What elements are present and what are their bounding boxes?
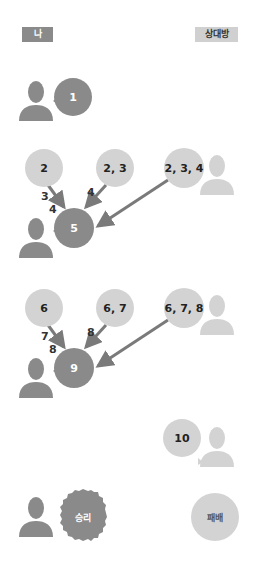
bubble-option-234: 2, 3, 4 [164, 148, 204, 188]
arrow-label: 7 [41, 330, 49, 343]
bubble-me-1: 1 [54, 78, 92, 116]
bubble-option-67: 6, 7 [96, 289, 134, 327]
opponent-person-icon [200, 295, 234, 335]
bubble-option-678: 6, 7, 8 [164, 288, 204, 328]
bubble-me-9: 9 [54, 348, 94, 388]
lose-badge: 패배 [191, 493, 239, 541]
arrow-label: 4 [49, 203, 57, 216]
bubble-option-6: 6 [25, 289, 63, 327]
bubble-opponent-10: 10 [163, 419, 201, 457]
bubble-option-23: 2, 3 [96, 149, 134, 187]
opponent-person-icon [200, 427, 234, 467]
arrow-234-to-5 [98, 180, 168, 226]
me-person-icon [19, 81, 53, 121]
bubble-option-2: 2 [25, 149, 63, 187]
me-person-icon [19, 218, 53, 258]
me-person-icon [19, 358, 53, 398]
arrow-label: 4 [87, 186, 95, 199]
opponent-person-icon [200, 155, 234, 195]
win-badge: 승리 [63, 497, 103, 537]
arrow-label: 8 [87, 326, 95, 339]
bubble-me-5: 5 [54, 208, 94, 248]
me-person-icon [19, 497, 53, 537]
arrow-label: 3 [41, 190, 49, 203]
arrow-label: 8 [49, 343, 57, 356]
arrow-678-to-9 [98, 320, 168, 366]
